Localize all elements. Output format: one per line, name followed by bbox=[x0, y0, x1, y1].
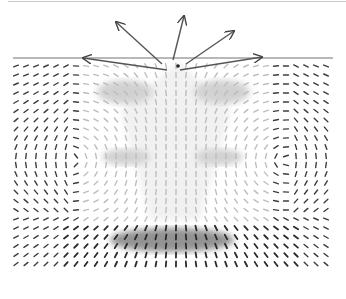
arrow-up bbox=[173, 16, 184, 60]
source-point bbox=[176, 64, 180, 68]
arrow-up-right bbox=[186, 31, 234, 64]
bottom-dark-band bbox=[110, 228, 234, 252]
shaded-regions bbox=[97, 62, 250, 252]
arrow-left bbox=[83, 58, 167, 70]
large-arrows bbox=[83, 16, 262, 70]
vector-field-diagram bbox=[0, 0, 346, 299]
